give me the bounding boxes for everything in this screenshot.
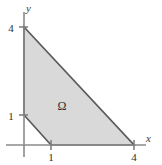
plot-canvas: y x 4 1 1 4 Ω	[0, 0, 162, 165]
region-omega-label: Ω	[58, 99, 67, 113]
y-axis-label: y	[25, 2, 31, 14]
x-tick-label-4: 4	[131, 151, 137, 163]
y-tick-label-4: 4	[8, 22, 14, 34]
math-figure: y x 4 1 1 4 Ω	[0, 0, 162, 165]
y-tick-label-1: 1	[8, 110, 14, 122]
x-axis-label: x	[145, 132, 151, 144]
x-tick-label-1: 1	[48, 151, 54, 163]
